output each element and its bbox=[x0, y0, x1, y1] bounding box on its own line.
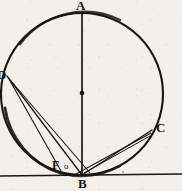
point-label-A: A bbox=[76, 0, 85, 12]
figure-canvas bbox=[0, 0, 182, 191]
tangent-line-at-B bbox=[0, 174, 182, 176]
point-label-B: B bbox=[78, 177, 87, 190]
point-label-F: F bbox=[52, 159, 59, 171]
point-label-C: C bbox=[156, 121, 165, 134]
segment-line-D-to-o bbox=[11, 81, 90, 173]
point-label-D: D bbox=[0, 68, 6, 81]
center-marker-dot bbox=[80, 91, 85, 96]
point-label-o: o bbox=[64, 162, 69, 171]
segment-chord-DB bbox=[7, 76, 82, 175]
geometric-figure: A B C D F o bbox=[0, 0, 182, 191]
